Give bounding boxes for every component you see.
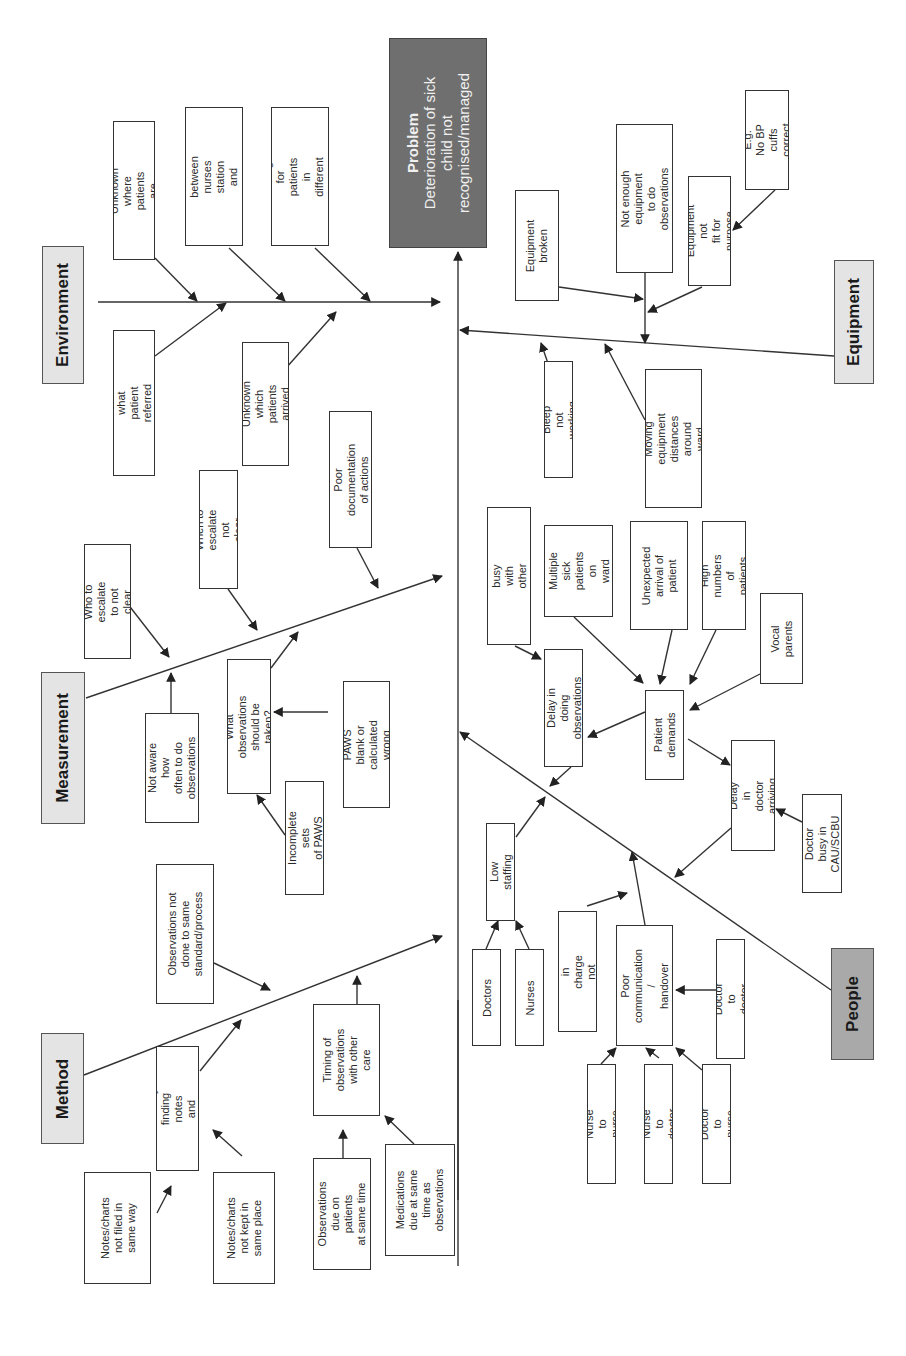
cause-box: Nurse in charge not aware: [558, 911, 597, 1032]
cause-box: When to escalate not clear: [199, 470, 238, 589]
cause-box: Moving equipment distances around ward: [645, 369, 702, 508]
cause-box: Doctor to doctor: [716, 939, 745, 1059]
equipment-bone: [460, 330, 834, 356]
category-environment: Environment: [42, 246, 84, 384]
cause-box: Delay in doctor arriving: [731, 740, 775, 851]
cause-box: Nurse to doctor: [644, 1064, 673, 1184]
cause-box: Distance between nurses station and room…: [185, 107, 243, 246]
cause-box: Unknown where patients are: [113, 121, 155, 260]
method-bone: [84, 936, 442, 1075]
cause-box: Poor communication / handover: [616, 925, 673, 1046]
cause-box: Not aware how often to do observations: [145, 713, 199, 823]
category-method: Method: [41, 1033, 84, 1144]
cause-box: Multiple sick patients on ward: [544, 525, 613, 617]
cause-box: High numbers of patients: [702, 521, 746, 630]
cause-box: Vocal parents: [760, 593, 803, 684]
problem-statement: ProblemDeterioration of sick child not r…: [389, 38, 487, 248]
cause-box: Notes/charts not kept in same place: [213, 1172, 275, 1284]
cause-box: Doctors: [472, 949, 501, 1046]
cause-box: Medications due at same time as observat…: [385, 1144, 455, 1256]
cause-box: Poor documentation of actions: [329, 411, 372, 548]
cause-box: Nurses: [515, 949, 544, 1046]
cause-box: Incomplete sets of PAWS: [285, 781, 324, 895]
cause-box: Unknown which patients arrived: [242, 342, 289, 466]
cause-box: Nurse busy with other patients: [487, 507, 531, 645]
cause-box: Observations due on patients at same tim…: [313, 1158, 371, 1270]
cause-box: Unknown what patient referred with: [113, 330, 155, 476]
cause-box: Delay in doing observations: [544, 649, 583, 767]
cause-box: What observations should be taken?: [227, 659, 271, 794]
cause-box: Not enough equipment to do observations: [616, 124, 673, 273]
category-measurement: Measurement: [41, 672, 85, 824]
cause-box: PAWS blank or calculated wrong: [343, 681, 390, 808]
cause-box: Timing of observations with other care: [313, 1004, 380, 1116]
cause-box: Nurses caring for patients in different …: [271, 107, 329, 246]
category-equipment: Equipment: [834, 260, 874, 384]
category-people: People: [831, 948, 874, 1060]
cause-box: Equipment broken: [515, 190, 559, 301]
cause-box: Who to escalate to not clear: [84, 544, 131, 659]
problem-label: Problem: [404, 113, 421, 173]
cause-box: Doctor to nurse: [702, 1064, 731, 1184]
cause-box: Unexpected arrival of patient: [630, 521, 688, 630]
cause-box: Bleep not working: [544, 361, 573, 478]
cause-box: Notes/charts not filed in same way: [84, 1172, 151, 1284]
cause-box: Equipment not fit for purpose: [688, 176, 731, 286]
cause-box: Observations not done to same standard/p…: [156, 864, 214, 1004]
cause-box: Nurse to nurse: [587, 1064, 616, 1184]
cause-box: E.g. No BP cuffs correct: [745, 90, 789, 190]
cause-box: Difficulty finding notes and charts: [156, 1046, 199, 1171]
cause-box: Doctor busy in CAU/SCBU: [802, 794, 842, 893]
cause-box: Patient demands: [645, 690, 684, 780]
cause-box: Low staffing: [486, 823, 515, 921]
problem-text: Deterioration of sick child not recognis…: [421, 73, 472, 213]
